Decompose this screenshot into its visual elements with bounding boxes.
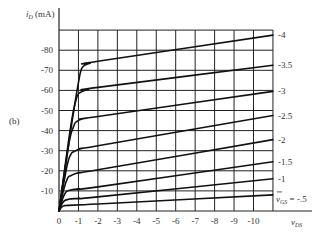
characteristic-curves bbox=[59, 35, 273, 211]
x-tick-label: -4 bbox=[133, 216, 141, 226]
x-tick-labels: 0-1-2-3-4-5-6-7-8-9-10 bbox=[57, 216, 260, 226]
x-tick-label: -5 bbox=[153, 216, 161, 226]
y-tick-label: -60 bbox=[41, 85, 53, 95]
x-axis-title: vDS bbox=[291, 217, 302, 228]
series-label: -3.5 bbox=[278, 60, 293, 70]
y-axis-title: iD (mA) bbox=[26, 9, 55, 20]
x-tick-label: -2 bbox=[94, 216, 102, 226]
series-label: -1.5 bbox=[278, 157, 293, 167]
y-tick-label: -10 bbox=[41, 186, 53, 196]
series-label: -3 bbox=[278, 86, 286, 96]
x-tick-label: -6 bbox=[172, 216, 180, 226]
x-axis-title-subscript: DS bbox=[294, 222, 302, 228]
x-tick-label: -9 bbox=[230, 216, 238, 226]
y-tick-label: -70 bbox=[41, 65, 53, 75]
chart: -10-20-30-40-50-60-70-80 0-1-2-3-4-5-6-7… bbox=[0, 0, 316, 232]
series-label: -2 bbox=[278, 135, 286, 145]
series-label: -4 bbox=[278, 30, 286, 40]
y-tick-label: -20 bbox=[41, 166, 53, 176]
x-tick-label: -7 bbox=[191, 216, 199, 226]
vgs-value: = -.5 bbox=[287, 194, 307, 204]
vgs-subscript: GS bbox=[280, 199, 287, 205]
series-label-vgs: vGS = -.5 bbox=[276, 194, 307, 205]
x-tick-label: 0 bbox=[57, 216, 62, 226]
series-label: -2.5 bbox=[278, 111, 293, 121]
x-tick-label: -10 bbox=[248, 216, 260, 226]
x-tick-label: -1 bbox=[75, 216, 83, 226]
axes bbox=[59, 8, 312, 211]
panel-label: (b) bbox=[9, 116, 20, 126]
x-tick-label: -8 bbox=[211, 216, 219, 226]
y-tick-labels: -10-20-30-40-50-60-70-80 bbox=[41, 45, 53, 196]
y-tick-label: -40 bbox=[41, 126, 53, 136]
series-labels: -4-3.5-3-2.5-2-1.5-1vGS = -.5 bbox=[276, 30, 307, 205]
x-tick-label: -3 bbox=[114, 216, 122, 226]
curve-vgs-4 bbox=[59, 35, 273, 211]
y-tick-label: -80 bbox=[41, 45, 53, 55]
y-tick-label: -30 bbox=[41, 146, 53, 156]
curve-vgs-1 bbox=[59, 179, 273, 211]
y-axis-title-unit: (mA) bbox=[33, 9, 55, 19]
y-tick-label: -50 bbox=[41, 106, 53, 116]
series-label: -1 bbox=[278, 174, 286, 184]
